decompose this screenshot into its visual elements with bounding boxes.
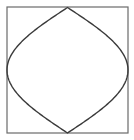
- square-frame: [7, 7, 128, 133]
- lens-curve: [7, 8, 128, 134]
- diagram-canvas: [0, 0, 134, 140]
